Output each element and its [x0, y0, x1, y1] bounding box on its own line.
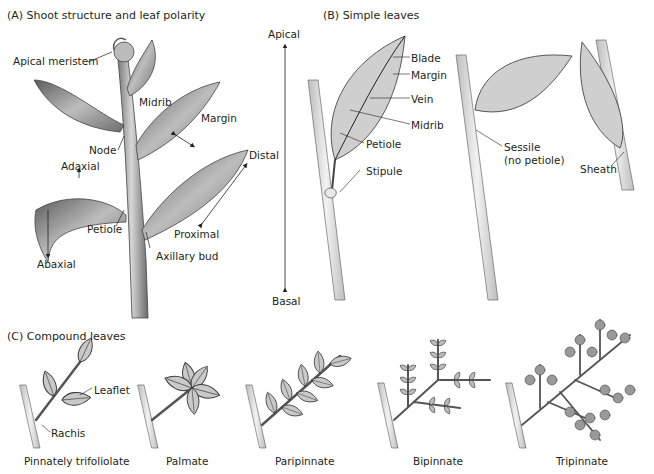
caption-bipinnate: Bipinnate: [413, 456, 463, 467]
label-midrib-b: Midrib: [411, 120, 444, 131]
label-adaxial: Adaxial: [61, 161, 100, 172]
axis-label-apical: Apical: [268, 29, 300, 40]
label-margin-a: Margin: [201, 113, 237, 124]
caption-palmate: Palmate: [166, 456, 208, 467]
label-axillary-bud: Axillary bud: [156, 251, 218, 262]
diagram-artwork: [0, 0, 654, 474]
label-margin-b: Margin: [411, 70, 447, 81]
label-petiole-b: Petiole: [366, 139, 401, 150]
label-blade: Blade: [411, 53, 441, 64]
label-vein: Vein: [411, 94, 433, 105]
label-leaflet: Leaflet: [94, 385, 130, 396]
label-apical-meristem: Apical meristem: [13, 56, 98, 67]
label-midrib-a: Midrib: [139, 97, 172, 108]
label-sheath: Sheath: [580, 164, 617, 175]
panel-a-title: (A) Shoot structure and leaf polarity: [7, 10, 205, 21]
label-node: Node: [89, 145, 116, 156]
panel-c-title: (C) Compound leaves: [7, 331, 126, 342]
panel-b-title: (B) Simple leaves: [323, 10, 419, 21]
label-stipule: Stipule: [366, 166, 402, 177]
label-rachis: Rachis: [51, 428, 85, 439]
label-distal: Distal: [249, 150, 279, 161]
label-petiole-a: Petiole: [87, 224, 122, 235]
axis-label-basal: Basal: [272, 296, 300, 307]
label-sessile-note: (no petiole): [504, 155, 565, 166]
label-sessile: Sessile: [504, 142, 540, 153]
caption-tripinnate: Tripinnate: [556, 456, 608, 467]
label-proximal: Proximal: [174, 229, 219, 240]
shoot-illustration: [34, 38, 285, 318]
label-abaxial: Abaxial: [37, 259, 76, 270]
caption-pinnately-trifoliolate: Pinnately trifoliolate: [24, 456, 129, 467]
caption-paripinnate: Paripinnate: [275, 456, 334, 467]
